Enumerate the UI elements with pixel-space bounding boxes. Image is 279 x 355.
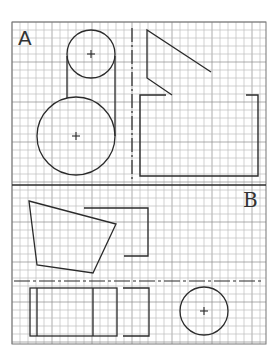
drawing-sheet: A B [0,0,279,355]
bracket-bottom [123,288,149,336]
graph-paper-grid [12,22,266,344]
center-mark-icon [87,50,95,58]
center-mark-icon [200,307,208,315]
diagonal-polyline [147,30,211,95]
center-mark-icon [72,132,80,140]
rectangle-inner-lines [37,288,93,336]
section-a: A [18,26,258,180]
open-rectangle [140,95,258,176]
rectangle-outer [30,288,117,336]
technical-drawing: A B [0,0,279,355]
section-a-label: A [18,26,32,50]
section-b-label: B [243,188,258,212]
